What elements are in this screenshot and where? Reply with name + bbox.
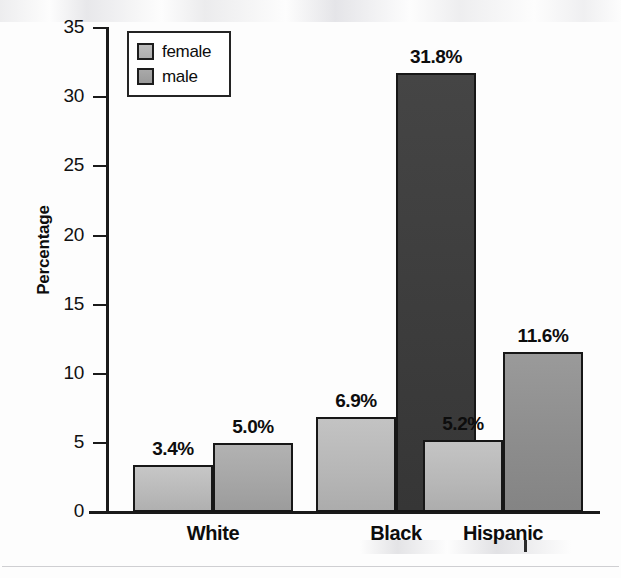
chart-page: Percentage 0 5 10 15 20 25 30 [0,0,621,578]
bar-label-hispanic-female: 5.2% [423,413,503,435]
bar-label-white-male: 5.0% [213,416,293,438]
y-axis-line [106,27,109,514]
bar-label-hispanic-male: 11.6% [503,325,583,347]
y-tick-label-2: 10 [44,362,84,384]
legend-label-male: male [162,68,198,85]
y-tick-mark-7 [93,27,106,29]
bar-hispanic-male[interactable] [503,352,583,512]
x-category-label-white: White [133,522,293,545]
y-tick-label-7: 35 [44,16,84,38]
y-tick-mark-2 [93,373,106,375]
y-tick-label-6: 30 [44,85,84,107]
y-tick-label-4: 20 [44,224,84,246]
legend-item-male[interactable]: male [137,64,229,89]
legend-swatch-female-icon [137,43,154,60]
bar-label-black-male: 31.8% [396,46,476,68]
y-tick-mark-4 [93,235,106,237]
y-tick-mark-6 [93,96,106,98]
y-tick-mark-5 [93,165,106,167]
bar-label-black-female: 6.9% [316,390,396,412]
legend-swatch-male-icon [137,68,154,85]
y-tick-label-1: 5 [44,431,84,453]
y-tick-mark-1 [93,442,106,444]
bar-white-male[interactable] [213,443,293,512]
bar-white-female[interactable] [133,465,213,512]
y-tick-label-5: 25 [44,154,84,176]
bar-black-female[interactable] [316,417,396,512]
bar-chart: Percentage 0 5 10 15 20 25 30 [0,0,621,578]
bar-label-white-female: 3.4% [133,438,213,460]
y-tick-label-3: 15 [44,293,84,315]
y-tick-label-0: 0 [44,500,84,522]
x-category-label-hispanic: Hispanic [423,522,583,545]
bar-hispanic-female[interactable] [423,440,503,512]
chart-legend: female male [127,31,231,97]
legend-label-female: female [162,43,211,60]
legend-item-female[interactable]: female [137,39,229,64]
y-tick-mark-0 [93,511,106,513]
y-tick-mark-3 [93,304,106,306]
